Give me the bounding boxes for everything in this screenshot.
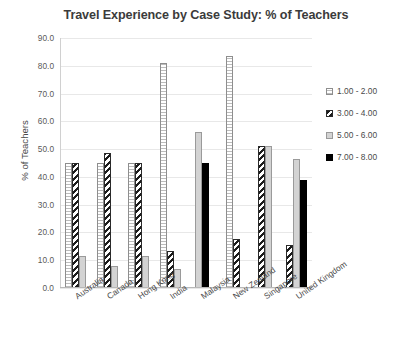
bar (97, 163, 104, 288)
bar (202, 163, 209, 288)
bar-group (186, 38, 218, 288)
bar-group (92, 38, 124, 288)
chart-legend: 1.00 - 2.003.00 - 4.005.00 - 6.007.00 - … (326, 80, 410, 168)
y-axis-tick-label: 30.0 (8, 200, 54, 210)
bar (226, 56, 233, 288)
bar (135, 163, 142, 288)
y-axis-tick-label: 10.0 (8, 255, 54, 265)
bar (160, 63, 167, 288)
y-axis-tick-label: 70.0 (8, 89, 54, 99)
bar (258, 146, 265, 288)
y-axis-tick-label: 80.0 (8, 61, 54, 71)
legend-label: 3.00 - 4.00 (337, 108, 377, 118)
y-axis-tick-label: 90.0 (8, 33, 54, 43)
legend-swatch-icon (326, 88, 333, 95)
bar (293, 159, 300, 288)
bar-group (123, 38, 155, 288)
legend-item[interactable]: 3.00 - 4.00 (326, 102, 410, 124)
y-axis-tick-label: 50.0 (8, 144, 54, 154)
plot-area (60, 38, 312, 288)
legend-label: 5.00 - 6.00 (337, 130, 377, 140)
y-axis-tick-label: 60.0 (8, 116, 54, 126)
bar-group (249, 38, 281, 288)
legend-swatch-icon (326, 132, 333, 139)
bar (195, 132, 202, 288)
bar (300, 180, 307, 288)
legend-swatch-icon (326, 110, 333, 117)
bar-group (281, 38, 313, 288)
legend-label: 7.00 - 8.00 (337, 152, 377, 162)
y-axis-tick-label: 0.0 (8, 283, 54, 293)
bar (233, 239, 240, 288)
y-axis-tick-label: 20.0 (8, 227, 54, 237)
y-axis-tick-label: 40.0 (8, 172, 54, 182)
bar-group (218, 38, 250, 288)
chart-container: Travel Experience by Case Study: % of Te… (0, 0, 412, 360)
legend-item[interactable]: 5.00 - 6.00 (326, 124, 410, 146)
chart-title: Travel Experience by Case Study: % of Te… (0, 8, 412, 22)
bar-group (155, 38, 187, 288)
bar (72, 163, 79, 288)
bar (65, 163, 72, 288)
legend-item[interactable]: 7.00 - 8.00 (326, 146, 410, 168)
bar (128, 163, 135, 288)
legend-swatch-icon (326, 154, 333, 161)
legend-item[interactable]: 1.00 - 2.00 (326, 80, 410, 102)
legend-label: 1.00 - 2.00 (337, 86, 377, 96)
bar (104, 153, 111, 288)
bar-group (60, 38, 92, 288)
